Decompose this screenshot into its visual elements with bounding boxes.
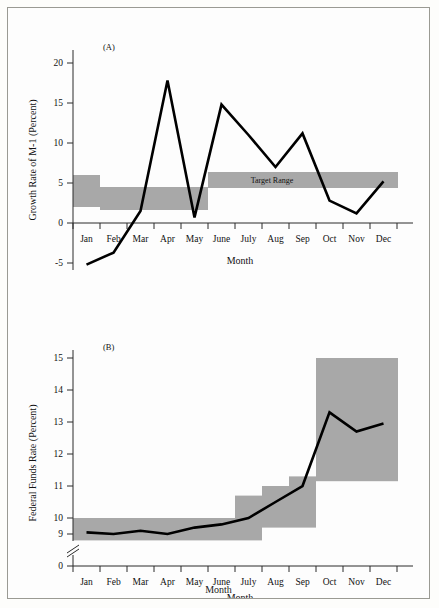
xtick-a-aug: Aug (267, 234, 284, 244)
ytick-b-0: 0 (58, 561, 63, 571)
xtick-a-sep: Sep (295, 234, 310, 244)
chart-b-bands (73, 358, 398, 540)
figure-page: Target Range (0, 0, 439, 608)
xtick-a-june: June (213, 234, 230, 244)
ytick-b-11: 11 (54, 481, 63, 491)
ytick-b-15: 15 (54, 353, 64, 363)
xtick-a-apr: Apr (160, 234, 176, 244)
xtick-a-july: July (241, 234, 257, 244)
ytick-a-0: 0 (58, 218, 63, 228)
target-range-label: Target Range (251, 176, 294, 185)
ytick-a-m5: -5 (55, 258, 63, 268)
ytick-a-10: 10 (54, 138, 64, 148)
chart-a-xaxis-title: Month (227, 255, 254, 266)
panel-b: 15 14 13 12 11 10 9 0 Jan Feb Mar Apr Ma… (8, 298, 429, 598)
band-b-oct-dec (316, 358, 398, 481)
xtick-a-oct: Oct (323, 234, 337, 244)
ytick-a-15: 15 (54, 98, 64, 108)
ytick-a-20: 20 (54, 58, 64, 68)
chart-a-bands (73, 172, 398, 210)
chart-a-ytick-labels: 20 15 10 5 0 -5 (54, 58, 64, 268)
xtick-a-dec: Dec (376, 234, 391, 244)
chart-b-ytick-labels: 15 14 13 12 11 10 9 0 (54, 353, 64, 571)
panel-a: Target Range (8, 8, 429, 298)
band-june-dec (208, 172, 398, 188)
xtick-a-may: May (186, 234, 204, 244)
ytick-b-9: 9 (58, 529, 63, 539)
ytick-b-14: 14 (54, 385, 64, 395)
chart-a-yaxis-title: Growth Rate of M-1 (Percent) (27, 99, 39, 220)
xtick-a-mar: Mar (133, 234, 150, 244)
chart-a-svg: Target Range (8, 8, 429, 298)
ytick-b-13: 13 (54, 417, 64, 427)
chart-b-svg: 15 14 13 12 11 10 9 0 Jan Feb Mar Apr Ma… (8, 298, 429, 598)
chart-b-xaxis-title-text: Month (205, 584, 232, 595)
chart-a-panel-id: (A) (103, 42, 115, 52)
chart-b-yaxis-title: Federal Funds Rate (Percent) (27, 405, 39, 522)
ytick-b-12: 12 (54, 449, 64, 459)
chart-b-panel-id: (B) (103, 342, 115, 352)
xtick-a-jan: Jan (80, 234, 93, 244)
ytick-b-10: 10 (54, 513, 64, 523)
chart-b-xaxis-title-overlay: Month (8, 584, 429, 595)
figure-frame: Target Range (7, 7, 430, 599)
band-jan (73, 175, 100, 207)
ytick-a-5: 5 (58, 178, 63, 188)
band-b-jan-july (73, 518, 235, 540)
xtick-a-nov: Nov (348, 234, 365, 244)
chart-a-xtick-labels: Jan Feb Mar Apr May June July Aug Sep Oc… (80, 234, 391, 244)
